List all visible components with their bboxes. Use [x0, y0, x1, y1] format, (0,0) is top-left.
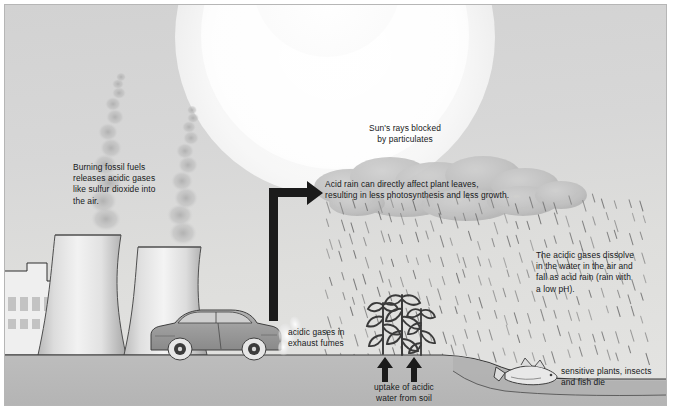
label-gases-dissolve: The acidic gases dissolve in the water i…: [536, 250, 666, 295]
plant: [407, 309, 435, 355]
label-burning-fossil-fuels: Burning fossil fuels releases acidic gas…: [73, 162, 233, 207]
diagram-root: Burning fossil fuels releases acidic gas…: [0, 0, 673, 412]
label-acid-rain-leaves: Acid rain can directly affect plant leav…: [325, 179, 595, 201]
label-suns-rays-blocked: Sun's rays blocked by particulates: [325, 123, 485, 145]
smoke-plume-left: [89, 73, 126, 232]
label-uptake-of-acidic-water: uptake of acidic water from soil: [344, 382, 464, 404]
cooling-tower-left: [38, 235, 126, 355]
flow-arrow: [269, 181, 323, 321]
label-exhaust-fumes: acidic gases in exhaust fumes: [288, 327, 398, 349]
label-sensitive-plants-die: sensitive plants, insects and fish die: [561, 366, 667, 388]
diagram-frame: Burning fossil fuels releases acidic gas…: [4, 4, 667, 406]
